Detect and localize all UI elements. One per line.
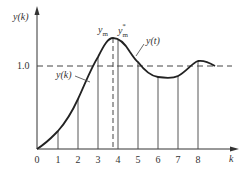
x-tick-8: 8 (196, 154, 201, 165)
y-axis-label: y(k) (13, 12, 29, 22)
x-axis-label: k (229, 154, 233, 164)
sample-lines (58, 40, 198, 149)
x-tick-2: 2 (76, 154, 81, 165)
yk-annotation: y(k) (56, 70, 72, 80)
x-tick-5: 5 (136, 154, 141, 165)
x-tick-7: 7 (176, 154, 181, 165)
x-tick-0: 0 (35, 154, 40, 165)
x-tick-4: 4 (116, 154, 121, 165)
x-tick-1: 1 (56, 154, 61, 165)
ym-star-label: ym* (118, 25, 131, 39)
yt-leader-line (136, 44, 144, 56)
ym-label: ym (98, 25, 108, 38)
x-tick-3: 3 (96, 154, 101, 165)
y-tick-1: 1.0 (17, 61, 30, 71)
x-tick-6: 6 (156, 154, 161, 165)
response-curve (37, 38, 215, 149)
y-axis-arrow-icon (35, 6, 40, 15)
x-axis-arrow-icon (230, 147, 239, 152)
yt-annotation: y(t) (146, 36, 160, 46)
